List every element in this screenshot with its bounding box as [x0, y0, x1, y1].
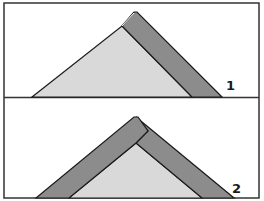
- panel-1-label: 1: [226, 78, 235, 93]
- panel-2-label: 2: [232, 181, 241, 196]
- diagram-canvas: 1 2: [0, 0, 264, 201]
